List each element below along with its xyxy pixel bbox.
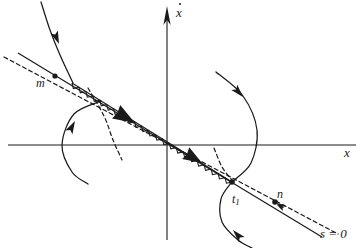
point-label-m: m — [36, 77, 45, 89]
y-axis-label: x — [176, 6, 182, 19]
trajectory-upper-left — [41, 2, 73, 83]
axes-group — [8, 6, 356, 240]
trajectory-upper-left-arrowhead — [50, 30, 62, 45]
marker-point-m — [52, 73, 57, 78]
switching-surface-label: s = 0 — [320, 227, 347, 240]
point-label-n: n — [277, 188, 283, 200]
time-label-t1: t1 — [232, 193, 240, 207]
arrowheads-group — [50, 30, 285, 242]
sliding-mode-baseline — [72, 83, 232, 182]
x-dot-glyph: x — [176, 6, 182, 19]
phase-plane-figure: x x m n t1 s = 0 — [0, 0, 362, 248]
dashed-boundary-curve-right — [214, 148, 232, 180]
x-axis-label: x — [344, 146, 350, 159]
figure-canvas — [0, 0, 362, 248]
trajectory-left-lower-loop — [62, 101, 101, 184]
marker-point-t1 — [229, 179, 235, 185]
trajectory-left-lower-loop-arrowhead — [65, 119, 78, 134]
t1-subscript: 1 — [235, 197, 240, 207]
